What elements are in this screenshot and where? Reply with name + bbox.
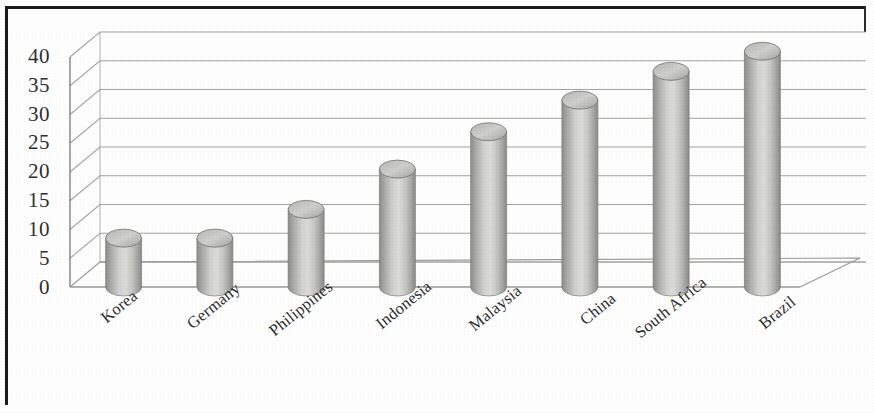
y-axis-tick-30: 30 — [4, 104, 50, 125]
y-axis-tick-25: 25 — [4, 132, 50, 153]
bar-cylinder — [562, 91, 598, 296]
bar-cylinder — [106, 229, 142, 296]
bar-cylinder — [379, 160, 415, 296]
y-axis-tick-5: 5 — [4, 248, 50, 269]
y-axis-tick-0: 0 — [4, 277, 50, 298]
y-axis-tick-10: 10 — [4, 219, 50, 240]
chart-canvas — [0, 0, 874, 413]
y-axis-tick-15: 15 — [4, 190, 50, 211]
bar-cylinder — [653, 62, 689, 296]
bar-chart: 40 35 30 25 20 15 10 5 0 Korea Germany P… — [0, 0, 874, 413]
bar-series — [106, 42, 781, 296]
y-axis-tick-20: 20 — [4, 161, 50, 182]
y-axis-tick-40: 40 — [4, 46, 50, 67]
y-axis-tick-35: 35 — [4, 75, 50, 96]
bar-cylinder — [744, 42, 780, 296]
bar-cylinder — [471, 123, 507, 296]
